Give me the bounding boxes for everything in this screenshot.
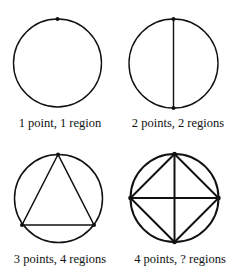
point [56,17,60,21]
panel-3-caption: 3 points, 4 regions [0,252,120,266]
point [128,196,133,201]
point [56,153,60,157]
point [92,223,96,227]
circle-regions-diagram [0,0,240,276]
panel-2-diagram [129,17,218,110]
panel-1-caption: 1 point, 1 region [0,116,120,130]
circle [14,19,102,107]
panel-2-caption: 2 points, 2 regions [118,116,238,130]
point [172,17,176,21]
point [20,223,24,227]
triangle-chords [22,155,94,226]
point [216,196,221,201]
point [172,240,177,245]
panel-3-diagram [15,153,103,243]
panel-1-diagram [14,17,102,107]
circle [15,155,103,243]
point [172,152,177,157]
panel-4-diagram [128,152,221,245]
point [172,106,176,110]
panel-4-caption: 4 points, ? regions [120,252,240,266]
